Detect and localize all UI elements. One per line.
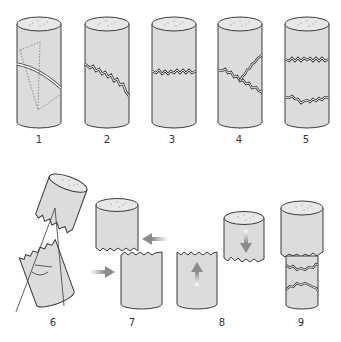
specimen-9: 9 xyxy=(281,201,323,328)
specimen-2: 2 xyxy=(85,17,129,145)
panel-label-2: 2 xyxy=(104,134,110,145)
arrow-left-icon xyxy=(142,233,168,245)
failure-modes-diagram: 1 2 3 4 5 xyxy=(0,0,341,342)
specimen-5: 5 xyxy=(285,17,329,145)
arrow-right-icon xyxy=(90,266,115,278)
specimen-3: 3 xyxy=(152,17,196,145)
specimen-8: 8 xyxy=(177,212,264,329)
panel-label-3: 3 xyxy=(169,134,175,145)
panel-label-1: 1 xyxy=(36,134,42,145)
panel-label-5: 5 xyxy=(303,134,309,145)
specimen-6: 6 xyxy=(16,170,89,328)
specimen-4: 4 xyxy=(218,17,262,145)
specimen-1: 1 xyxy=(17,17,61,145)
panel-label-4: 4 xyxy=(236,134,242,145)
panel-label-6: 6 xyxy=(50,317,56,328)
specimen-7: 7 xyxy=(96,199,162,329)
panel-label-8: 8 xyxy=(219,317,225,328)
panel-label-9: 9 xyxy=(298,317,304,328)
panel-label-7: 7 xyxy=(129,317,135,328)
